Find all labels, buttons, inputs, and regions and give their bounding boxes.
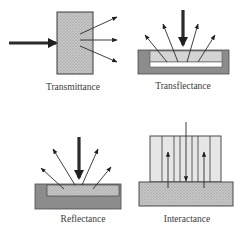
reflectance-panel: [35, 137, 121, 209]
reflected-ray-arrow-2: [53, 149, 75, 185]
sample-layer: [47, 185, 119, 196]
reflector-layer: [150, 62, 222, 67]
transmittance-label: Transmittance: [46, 82, 100, 92]
sample-block: [139, 182, 233, 206]
sample-block: [57, 12, 93, 74]
sample-layer: [150, 51, 222, 62]
interactance-label: Interactance: [164, 214, 210, 224]
transmittance-panel: [9, 12, 117, 74]
measurement-modes-diagram: [0, 0, 246, 231]
interactance-panel: [139, 122, 233, 206]
transflectance-label: Transflectance: [155, 81, 211, 91]
reflectance-label: Reflectance: [61, 214, 106, 224]
transflectance-panel: [138, 10, 229, 74]
reflected-ray-arrow-3: [82, 149, 98, 185]
